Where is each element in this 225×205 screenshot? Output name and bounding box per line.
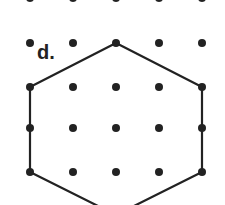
grid-dot (26, 83, 34, 91)
problem-label: d. (37, 42, 55, 62)
grid-dot (69, 0, 77, 2)
grid-dot (112, 124, 120, 132)
grid-dot (26, 39, 34, 47)
grid-dot (198, 39, 206, 47)
grid-dot (69, 83, 77, 91)
grid-dot (112, 168, 120, 176)
grid-dot (26, 124, 34, 132)
grid-dot (26, 168, 34, 176)
grid-dot (198, 0, 206, 2)
grid-dots (26, 0, 206, 176)
grid-dot (198, 124, 206, 132)
grid-dot (69, 168, 77, 176)
grid-dot (112, 0, 120, 2)
grid-dot (112, 83, 120, 91)
grid-dot (198, 168, 206, 176)
grid-dot (198, 83, 206, 91)
grid-dot (69, 39, 77, 47)
grid-dot (155, 168, 163, 176)
grid-dot (26, 0, 34, 2)
grid-dot (112, 39, 120, 47)
dot-grid-diagram (0, 0, 225, 205)
grid-dot (155, 124, 163, 132)
grid-dot (155, 39, 163, 47)
grid-dot (155, 0, 163, 2)
grid-dot (69, 124, 77, 132)
grid-dot (155, 83, 163, 91)
